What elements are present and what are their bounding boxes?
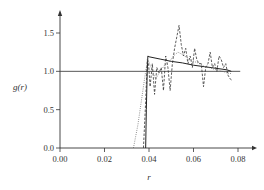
y-axis-label: g(r) — [13, 82, 27, 92]
y-tick-label: 0.5 — [43, 105, 54, 115]
y-tick-label: 0.0 — [43, 143, 54, 153]
x-tick-label: 0.02 — [97, 154, 112, 164]
y-axis-arrow-icon — [58, 10, 62, 16]
series-dotted-line — [133, 52, 231, 148]
x-tick-label: 0.08 — [231, 154, 246, 164]
series-solid-line — [146, 56, 232, 148]
x-axis-arrow-icon — [252, 146, 257, 150]
axes: 0.000.020.040.060.080.00.51.01.5 — [43, 10, 257, 164]
x-tick-label: 0.06 — [186, 154, 201, 164]
x-tick-label: 0.00 — [53, 154, 68, 164]
y-tick-label: 1.5 — [43, 28, 54, 38]
x-tick-label: 0.04 — [142, 154, 158, 164]
series-dashed-line — [143, 25, 232, 148]
y-tick-label: 1.0 — [43, 66, 54, 76]
x-axis-label: r — [147, 172, 151, 182]
chart: 0.000.020.040.060.080.00.51.01.5 r g(r) — [0, 0, 264, 190]
series-layer — [133, 25, 232, 148]
